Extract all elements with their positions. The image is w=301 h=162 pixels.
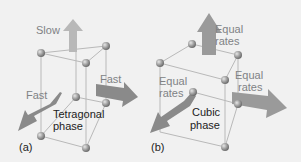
fast-right-label: Fast: [100, 74, 121, 85]
tetragonal-label: Tetragonal: [53, 109, 104, 120]
slow-up-arrow: [63, 19, 83, 52]
fast-left-label: Fast: [26, 90, 47, 101]
panel-a-tag: (a): [19, 141, 32, 153]
panel-b-tag: (b): [151, 141, 164, 153]
crystal-growth-figure: Slow Fast Fast Tetragonal phase (a) Equa…: [0, 0, 301, 162]
equal-up-label-1: Equal: [215, 24, 243, 35]
equal-left-label-2: rates: [159, 88, 183, 99]
cubic-phase-label: phase: [190, 120, 220, 131]
equal-up-label-2: rates: [215, 36, 239, 47]
equal-right-label-1: Equal: [235, 70, 263, 81]
equal-right-label-2: rates: [238, 82, 262, 93]
cubic-label: Cubic: [192, 107, 220, 118]
slow-label: Slow: [36, 25, 60, 36]
equal-left-label-1: Equal: [159, 76, 187, 87]
tetragonal-phase-label: phase: [53, 121, 83, 132]
